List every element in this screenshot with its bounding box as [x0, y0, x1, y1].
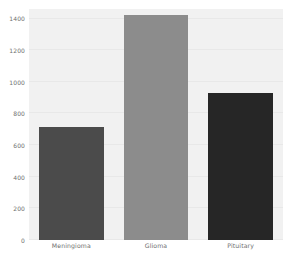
y-axis-tick-labels: 0200400600800100012001400 — [0, 9, 29, 240]
bar-glioma — [124, 15, 188, 240]
y-tick-label-200: 200 — [13, 205, 25, 212]
y-tick-label-1000: 1000 — [9, 78, 25, 85]
plot-area — [29, 9, 283, 240]
bar-meningioma — [39, 127, 103, 240]
x-tick-label-pituitary: Pituitary — [227, 242, 254, 249]
y-tick-label-0: 0 — [21, 237, 25, 244]
bar-pituitary — [208, 93, 272, 240]
y-tick-label-800: 800 — [13, 110, 25, 117]
y-tick-label-600: 600 — [13, 142, 25, 149]
y-tick-label-400: 400 — [13, 173, 25, 180]
x-axis-tick-labels: MeningiomaGliomaPituitary — [29, 242, 283, 256]
x-tick-label-meningioma: Meningioma — [52, 242, 91, 249]
x-tick-label-glioma: Glioma — [145, 242, 167, 249]
bar-chart-figure: 0200400600800100012001400 MeningiomaGlio… — [0, 0, 290, 266]
y-tick-label-1400: 1400 — [9, 15, 25, 22]
bar-group — [29, 9, 283, 240]
y-tick-label-1200: 1200 — [9, 47, 25, 54]
